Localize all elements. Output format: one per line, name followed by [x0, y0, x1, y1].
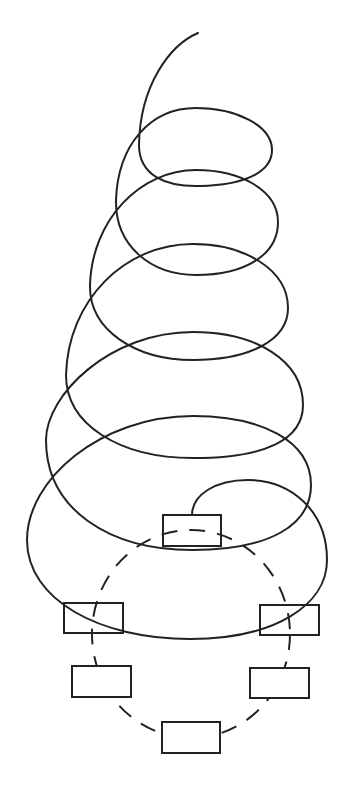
diagram-canvas: [0, 0, 350, 794]
node-left-lower[interactable]: [72, 666, 131, 697]
node-right-upper[interactable]: [260, 605, 319, 635]
node-top[interactable]: [163, 515, 221, 546]
spiral-line: [27, 33, 327, 639]
node-right-lower[interactable]: [250, 668, 309, 698]
node-bottom[interactable]: [162, 722, 220, 753]
diagram-svg: [0, 0, 350, 794]
node-left-upper[interactable]: [64, 603, 123, 633]
